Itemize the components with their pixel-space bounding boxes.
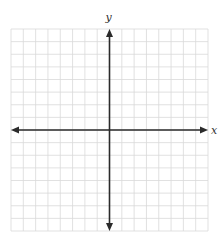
x-axis-left-arrow-icon (11, 127, 19, 134)
y-axis-bottom-arrow-icon (106, 223, 113, 231)
coordinate-plane: x y (0, 0, 224, 244)
x-axis-right-arrow-icon (200, 127, 208, 134)
x-axis-label: x (211, 124, 218, 137)
y-axis-top-arrow-icon (106, 29, 113, 37)
y-axis-label: y (105, 11, 113, 24)
